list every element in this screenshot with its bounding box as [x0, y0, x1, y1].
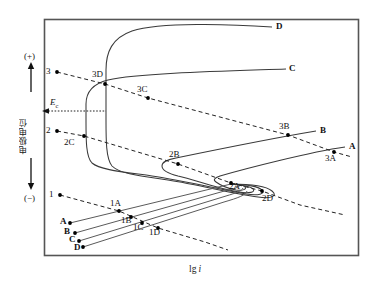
- intersection-label-1C: 1C: [133, 223, 144, 232]
- dot-3D: [103, 82, 107, 86]
- ec-arrowhead: [42, 108, 49, 113]
- intersection-label-2A: 2A: [229, 182, 240, 191]
- anodic-curve-D: [106, 24, 274, 197]
- cathodic-line-B: [75, 185, 240, 233]
- intersection-label-2B: 2B: [169, 150, 180, 159]
- y-axis-label: 电极电位: [18, 118, 32, 154]
- polarization-diagram-svg: [0, 0, 381, 288]
- y-axis-plus-label: (+): [24, 51, 35, 61]
- start-label-D: D: [74, 243, 81, 252]
- dot-start-D: [81, 245, 85, 249]
- dot-start-3: [55, 70, 59, 74]
- intersection-label-1A: 1A: [110, 199, 121, 208]
- y-axis-down-arrowhead: [28, 183, 34, 190]
- dot-3B: [286, 133, 290, 137]
- dot-1A: [117, 209, 121, 213]
- curve-end-label-D: D: [276, 22, 283, 31]
- intersection-label-1B: 1B: [121, 216, 132, 225]
- dot-start-A: [68, 221, 72, 225]
- figure-canvas: (+) 电极电位 (−) lgi Ec 3 2 1 A B C D D C B …: [0, 0, 381, 288]
- cathodic-line-D: [83, 191, 247, 247]
- start-label-1: 1: [49, 190, 54, 199]
- curve-end-label-B: B: [320, 126, 326, 135]
- dot-start-2: [55, 129, 59, 133]
- intersection-label-3C: 3C: [137, 85, 148, 94]
- x-axis-label-i: i: [196, 264, 201, 274]
- y-axis-minus-label: (−): [24, 193, 35, 203]
- ec-label-sub: c: [56, 102, 59, 109]
- y-axis-up-arrowhead: [28, 62, 34, 69]
- x-axis-label: lgi: [189, 264, 201, 274]
- anodic-curve-group: [86, 24, 345, 197]
- start-label-3: 3: [46, 67, 51, 76]
- dot-2C: [82, 134, 86, 138]
- intersection-label-3B: 3B: [279, 122, 290, 131]
- intersection-label-2D: 2D: [262, 194, 273, 203]
- dashed-line-2: [57, 131, 345, 215]
- start-label-A: A: [60, 217, 67, 226]
- dot-start-1: [58, 193, 62, 197]
- cathodic-line-A: [70, 184, 231, 223]
- dot-2B: [176, 162, 180, 166]
- plot-border: [45, 20, 359, 256]
- marker-dot-group: [55, 70, 336, 249]
- cathodic-line-group: [70, 184, 247, 247]
- dot-3C: [146, 96, 150, 100]
- dashed-line-3: [57, 72, 352, 157]
- curve-end-label-C: C: [289, 64, 296, 73]
- curve-end-label-A: A: [349, 142, 356, 151]
- ec-label: Ec: [50, 98, 58, 109]
- anodic-curve-C: [86, 69, 286, 195]
- intersection-label-1D: 1D: [149, 228, 160, 237]
- intersection-label-2C: 2C: [64, 138, 75, 147]
- intersection-label-3D: 3D: [92, 70, 103, 79]
- start-label-2: 2: [46, 126, 51, 135]
- intersection-label-3A: 3A: [325, 154, 336, 163]
- dashed-locus-group: [57, 72, 352, 250]
